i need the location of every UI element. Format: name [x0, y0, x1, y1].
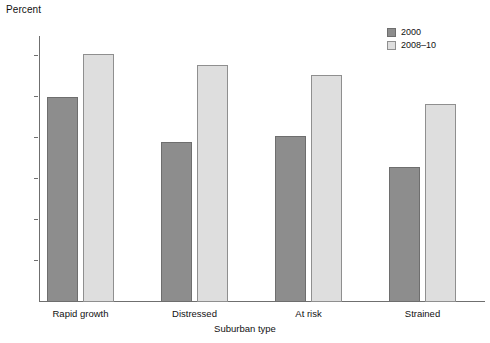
legend-label: 2000: [401, 26, 421, 39]
bar: [311, 75, 342, 302]
legend-item: 2008–10: [387, 39, 436, 52]
y-axis-tick-mark: [34, 55, 38, 56]
x-axis-title: Suburban type: [0, 323, 490, 334]
y-axis-title: Percent: [6, 4, 41, 15]
legend-label: 2008–10: [401, 39, 436, 52]
bar: [47, 97, 78, 302]
x-axis-category-label: At risk: [249, 308, 369, 319]
y-axis-tick-mark: [34, 178, 38, 179]
y-axis-tick-mark: [34, 96, 38, 97]
x-axis-category-label: Distressed: [135, 308, 255, 319]
legend-item: 2000: [387, 26, 436, 39]
legend-swatch: [387, 41, 396, 50]
bar-chart: Percent 24681012 Rapid growthDistressedA…: [0, 0, 490, 343]
x-axis-category-label: Rapid growth: [21, 308, 141, 319]
bar: [425, 104, 456, 302]
legend-swatch: [387, 28, 396, 37]
y-axis-tick-mark: [34, 260, 38, 261]
y-axis-tick-mark: [34, 137, 38, 138]
bar: [389, 167, 420, 302]
bar: [161, 142, 192, 302]
bar: [83, 54, 114, 302]
bar: [275, 136, 306, 302]
x-axis-category-label: Strained: [363, 308, 483, 319]
y-axis-tick-mark: [34, 219, 38, 220]
legend: 20002008–10: [387, 26, 436, 52]
bar: [197, 65, 228, 302]
plot-area: [39, 36, 485, 302]
